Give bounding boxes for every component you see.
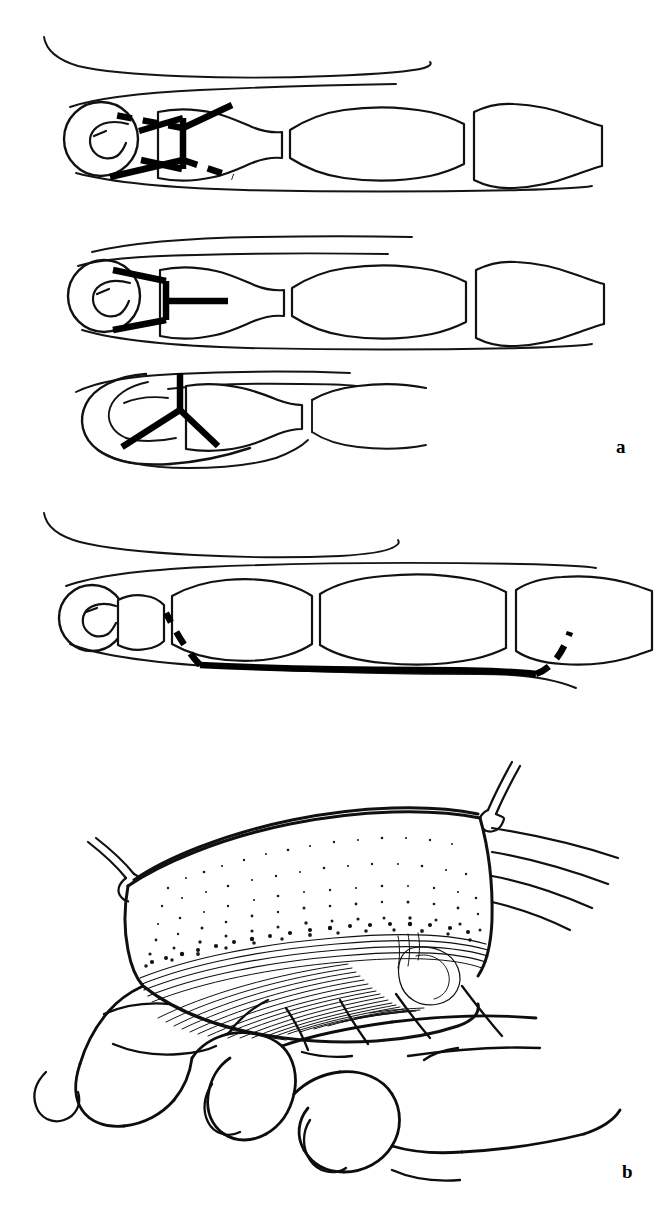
skin-crease (492, 902, 570, 930)
finger-diagram-2 (68, 236, 604, 349)
skin-flap-illustration (88, 762, 618, 1042)
incision-line-solid (113, 320, 166, 330)
finger-diagram-4 (44, 513, 652, 688)
incision-line-solid (200, 665, 536, 674)
finger-diagram-1 (44, 37, 602, 192)
incision-line-solid (113, 270, 166, 281)
finger-diagram-3 (76, 372, 426, 468)
panel-label-b: b (622, 1162, 633, 1181)
skin-crease (492, 828, 618, 858)
figure-illustration (0, 0, 660, 1210)
panel-label-a: a (616, 437, 626, 456)
suture-left (96, 838, 134, 874)
hand-illustration (34, 986, 620, 1181)
suture-right (496, 766, 520, 814)
skin-crease (492, 876, 592, 908)
figure-root: a b (0, 0, 660, 1210)
